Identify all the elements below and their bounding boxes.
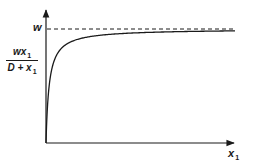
y-num-sub: 1 bbox=[27, 52, 31, 59]
saturation-curve bbox=[46, 31, 235, 143]
y-axis-label: wx1 D + x1 bbox=[5, 47, 39, 75]
y-num-var: wx bbox=[13, 46, 26, 57]
x-sub: 1 bbox=[235, 154, 239, 161]
asymptote-label: w bbox=[33, 22, 42, 33]
x-var: x bbox=[228, 147, 234, 159]
y-label-denominator: D + x1 bbox=[5, 61, 39, 75]
y-label-numerator: wx1 bbox=[5, 47, 39, 60]
asymptote-label-text: w bbox=[33, 21, 42, 33]
x-axis-label: x1 bbox=[228, 148, 239, 161]
y-den-var: D + x bbox=[7, 62, 31, 73]
y-den-sub: 1 bbox=[33, 68, 37, 75]
